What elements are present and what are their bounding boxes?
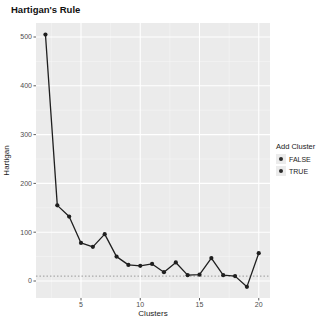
data-point: [209, 256, 213, 260]
data-point: [55, 203, 59, 207]
x-tick-label: 20: [255, 301, 263, 308]
data-point: [186, 273, 190, 277]
x-axis-title: Clusters: [36, 309, 270, 318]
data-point: [138, 264, 142, 268]
legend-label-false: FALSE: [289, 156, 311, 163]
legend-title: Add Cluster: [276, 142, 320, 151]
legend-row-true: TRUE: [276, 166, 320, 176]
y-tick-label: 300: [20, 131, 32, 138]
y-tick-label: 0: [28, 277, 32, 284]
data-point: [174, 260, 178, 264]
y-tick-label: 200: [20, 180, 32, 187]
legend-key-true: [276, 166, 286, 176]
data-point: [197, 273, 201, 277]
x-tick-label: 5: [79, 301, 83, 308]
x-tick-label: 10: [136, 301, 144, 308]
legend-key-false: [276, 154, 286, 164]
point-icon: [279, 157, 283, 161]
data-point: [257, 251, 261, 255]
data-point: [221, 273, 225, 277]
data-point: [245, 285, 249, 289]
data-point: [126, 263, 130, 267]
data-point: [79, 241, 83, 245]
data-point: [67, 214, 71, 218]
data-point: [103, 232, 107, 236]
chart-title: Hartigan's Rule: [11, 4, 80, 15]
y-axis-title: Hartigan: [2, 129, 11, 193]
x-tick-label: 15: [196, 301, 204, 308]
y-tick-label: 500: [20, 33, 32, 40]
legend: Add Cluster FALSE TRUE: [276, 142, 320, 178]
legend-row-false: FALSE: [276, 154, 320, 164]
data-point: [91, 245, 95, 249]
plot-figure: 51015200100200300400500 Hartigan's Rule …: [0, 0, 321, 329]
data-point: [43, 32, 47, 36]
data-point: [233, 274, 237, 278]
data-point: [162, 270, 166, 274]
data-point: [114, 255, 118, 259]
y-tick-label: 400: [20, 82, 32, 89]
point-icon: [279, 169, 283, 173]
legend-label-true: TRUE: [289, 168, 308, 175]
y-tick-label: 100: [20, 229, 32, 236]
data-point: [150, 262, 154, 266]
chart-canvas: 51015200100200300400500: [0, 0, 321, 329]
